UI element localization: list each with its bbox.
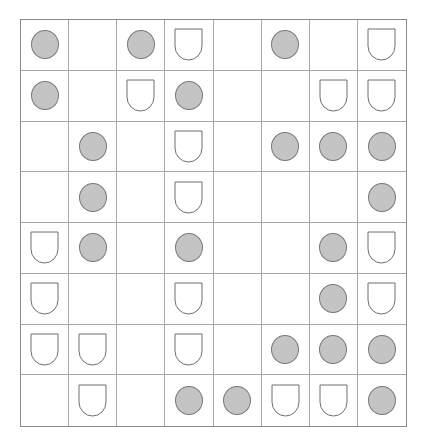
board-cell-r4-c6[interactable] — [262, 172, 310, 223]
board-cell-r4-c8[interactable] — [358, 172, 406, 223]
board-cell-r1-c1[interactable] — [21, 20, 69, 71]
circle-piece-icon — [79, 233, 107, 262]
board-cell-r2-c7[interactable] — [310, 71, 358, 122]
board-cell-r3-c8[interactable] — [358, 122, 406, 173]
board-cell-r6-c7[interactable] — [310, 274, 358, 325]
circle-piece-icon — [271, 30, 299, 59]
board-cell-r3-c7[interactable] — [310, 122, 358, 173]
circle-piece-icon — [271, 335, 299, 364]
board-cell-r8-c4[interactable] — [165, 375, 213, 426]
board-cell-r7-c7[interactable] — [310, 325, 358, 376]
board-cell-r6-c5[interactable] — [214, 274, 262, 325]
shield-piece-icon — [174, 181, 203, 214]
shield-piece-icon — [174, 28, 203, 61]
shield-piece-icon — [367, 28, 396, 61]
board-cell-r2-c2[interactable] — [69, 71, 117, 122]
board-cell-r6-c1[interactable] — [21, 274, 69, 325]
shield-piece-icon — [319, 384, 348, 417]
board-cell-r2-c1[interactable] — [21, 71, 69, 122]
board-cell-r8-c2[interactable] — [69, 375, 117, 426]
shield-piece-icon — [174, 130, 203, 163]
circle-piece-icon — [175, 81, 203, 110]
board-cell-r3-c6[interactable] — [262, 122, 310, 173]
board-cell-r2-c8[interactable] — [358, 71, 406, 122]
board-cell-r6-c8[interactable] — [358, 274, 406, 325]
board-cell-r4-c2[interactable] — [69, 172, 117, 223]
board-cell-r1-c3[interactable] — [117, 20, 165, 71]
circle-piece-icon — [368, 183, 396, 212]
board-cell-r6-c2[interactable] — [69, 274, 117, 325]
board-cell-r3-c1[interactable] — [21, 122, 69, 173]
shield-piece-icon — [367, 231, 396, 264]
shield-piece-icon — [271, 384, 300, 417]
board-cell-r8-c8[interactable] — [358, 375, 406, 426]
board-cell-r2-c4[interactable] — [165, 71, 213, 122]
board-cell-r7-c4[interactable] — [165, 325, 213, 376]
board-cell-r5-c2[interactable] — [69, 223, 117, 274]
circle-piece-icon — [79, 132, 107, 161]
board-cell-r3-c2[interactable] — [69, 122, 117, 173]
board-cell-r1-c6[interactable] — [262, 20, 310, 71]
shield-piece-icon — [30, 333, 59, 366]
board-cell-r2-c3[interactable] — [117, 71, 165, 122]
shield-piece-icon — [367, 282, 396, 315]
board-cell-r6-c4[interactable] — [165, 274, 213, 325]
board-cell-r1-c5[interactable] — [214, 20, 262, 71]
board-cell-r5-c1[interactable] — [21, 223, 69, 274]
board-cell-r7-c2[interactable] — [69, 325, 117, 376]
circle-piece-icon — [175, 233, 203, 262]
board-cell-r7-c8[interactable] — [358, 325, 406, 376]
board-cell-r1-c8[interactable] — [358, 20, 406, 71]
board-cell-r7-c1[interactable] — [21, 325, 69, 376]
shield-piece-icon — [78, 333, 107, 366]
board-cell-r3-c5[interactable] — [214, 122, 262, 173]
shield-piece-icon — [174, 333, 203, 366]
board-cell-r7-c5[interactable] — [214, 325, 262, 376]
board-cell-r4-c3[interactable] — [117, 172, 165, 223]
board-cell-r5-c8[interactable] — [358, 223, 406, 274]
board-cell-r7-c6[interactable] — [262, 325, 310, 376]
board-cell-r8-c1[interactable] — [21, 375, 69, 426]
board-cell-r6-c3[interactable] — [117, 274, 165, 325]
board-cell-r8-c3[interactable] — [117, 375, 165, 426]
board-cell-r4-c7[interactable] — [310, 172, 358, 223]
board-cell-r8-c5[interactable] — [214, 375, 262, 426]
board-cell-r4-c4[interactable] — [165, 172, 213, 223]
board-cell-r7-c3[interactable] — [117, 325, 165, 376]
shield-piece-icon — [367, 79, 396, 112]
circle-piece-icon — [319, 233, 347, 262]
board-cell-r2-c6[interactable] — [262, 71, 310, 122]
game-board — [20, 19, 407, 427]
board-cell-r5-c3[interactable] — [117, 223, 165, 274]
board-cell-r5-c6[interactable] — [262, 223, 310, 274]
circle-piece-icon — [223, 386, 251, 415]
circle-piece-icon — [319, 335, 347, 364]
board-cell-r4-c1[interactable] — [21, 172, 69, 223]
board-cell-r2-c5[interactable] — [214, 71, 262, 122]
board-cell-r6-c6[interactable] — [262, 274, 310, 325]
board-cell-r1-c4[interactable] — [165, 20, 213, 71]
shield-piece-icon — [78, 384, 107, 417]
circle-piece-icon — [368, 335, 396, 364]
circle-piece-icon — [127, 30, 155, 59]
board-cell-r5-c7[interactable] — [310, 223, 358, 274]
board-cell-r5-c4[interactable] — [165, 223, 213, 274]
board-cell-r4-c5[interactable] — [214, 172, 262, 223]
board-cell-r8-c6[interactable] — [262, 375, 310, 426]
circle-piece-icon — [319, 132, 347, 161]
circle-piece-icon — [31, 30, 59, 59]
board-cell-r8-c7[interactable] — [310, 375, 358, 426]
shield-piece-icon — [30, 231, 59, 264]
circle-piece-icon — [368, 132, 396, 161]
shield-piece-icon — [319, 79, 348, 112]
board-cell-r1-c2[interactable] — [69, 20, 117, 71]
board-cell-r3-c4[interactable] — [165, 122, 213, 173]
board-cell-r3-c3[interactable] — [117, 122, 165, 173]
shield-piece-icon — [30, 282, 59, 315]
circle-piece-icon — [175, 386, 203, 415]
circle-piece-icon — [319, 284, 347, 313]
board-cell-r5-c5[interactable] — [214, 223, 262, 274]
circle-piece-icon — [79, 183, 107, 212]
circle-piece-icon — [368, 386, 396, 415]
board-cell-r1-c7[interactable] — [310, 20, 358, 71]
